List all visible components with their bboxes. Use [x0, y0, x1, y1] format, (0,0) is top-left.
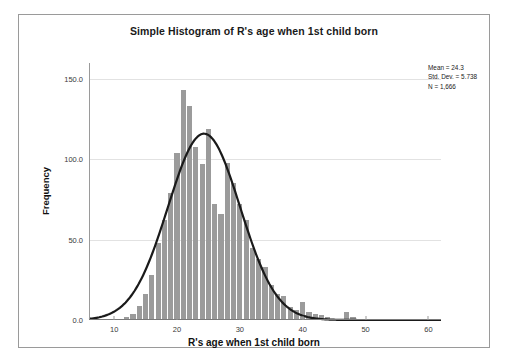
x-tick-label: 60 — [424, 325, 432, 334]
histogram-bar — [149, 275, 154, 319]
histogram-bar — [206, 129, 211, 319]
histogram-bar — [143, 294, 148, 319]
histogram-bar — [275, 294, 280, 319]
x-tick — [428, 316, 429, 320]
y-tick-label: 50.0 — [68, 235, 83, 244]
histogram-bar — [225, 163, 230, 319]
histogram-bar — [306, 312, 311, 319]
chart-title: Simple Histogram of R's age when 1st chi… — [19, 25, 489, 37]
histogram-bar — [262, 267, 267, 319]
x-tick — [365, 316, 366, 320]
gridline — [89, 240, 441, 241]
histogram-bar — [231, 183, 236, 319]
y-axis-line — [89, 63, 90, 320]
histogram-bar — [193, 147, 198, 319]
histogram-bar — [174, 153, 179, 319]
x-tick-label: 10 — [110, 325, 118, 334]
histogram-bar — [156, 243, 161, 319]
chart-frame: Simple Histogram of R's age when 1st chi… — [18, 14, 490, 348]
histogram-bar — [344, 312, 349, 319]
y-tick-label: 100.0 — [64, 155, 83, 164]
x-tick-label: 30 — [236, 325, 244, 334]
histogram-bar — [256, 259, 261, 319]
x-tick — [239, 316, 240, 320]
gridline — [89, 159, 441, 160]
histogram-bar — [237, 204, 242, 319]
x-tick — [302, 316, 303, 320]
histogram-bar — [244, 220, 249, 319]
x-tick — [114, 316, 115, 320]
histogram-bar — [250, 248, 255, 319]
histogram-bar — [281, 296, 286, 319]
y-tick-label: 150.0 — [64, 75, 83, 84]
histogram-bar — [212, 204, 217, 319]
histogram-bar — [218, 214, 223, 319]
x-tick-label: 40 — [299, 325, 307, 334]
histogram-bar — [269, 285, 274, 319]
x-tick-label: 20 — [173, 325, 181, 334]
x-axis-label: R's age when 1st child born — [19, 337, 489, 348]
histogram-bar — [181, 90, 186, 319]
plot-area: 0.050.0100.0150.0 102030405060 — [89, 63, 441, 320]
histogram-bar — [200, 164, 205, 319]
histogram-bar — [187, 106, 192, 319]
y-tick-label: 0.0 — [73, 316, 83, 325]
x-tick-label: 50 — [361, 325, 369, 334]
x-axis-line — [89, 319, 441, 320]
histogram-bar — [294, 310, 299, 319]
x-tick — [177, 316, 178, 320]
y-axis-label: Frequency — [40, 167, 51, 215]
gridline — [89, 79, 441, 80]
histogram-bar — [168, 193, 173, 319]
histogram-bar — [288, 307, 293, 319]
histogram-bar — [137, 306, 142, 319]
histogram-bar — [162, 220, 167, 319]
